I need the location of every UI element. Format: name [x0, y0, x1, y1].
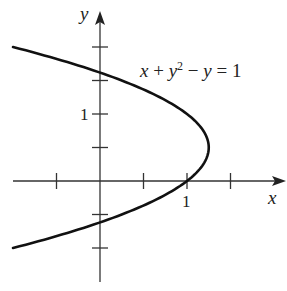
y-axis-label: y — [78, 3, 89, 24]
y-tick-label-1: 1 — [80, 105, 89, 124]
graph: y x 1 1 x + y2 − y = 1 — [0, 0, 287, 291]
equation-rhs: = 1 — [212, 60, 242, 81]
equation-plus: + — [148, 60, 168, 81]
x-tick-label-1: 1 — [182, 192, 191, 211]
equation-minus: − — [183, 60, 203, 81]
parabola-curve — [13, 47, 209, 248]
equation-label: x + y2 − y = 1 — [139, 59, 241, 81]
x-axis-label: x — [267, 187, 277, 208]
equation-y: y — [167, 60, 178, 81]
equation-y2: y — [201, 60, 212, 81]
